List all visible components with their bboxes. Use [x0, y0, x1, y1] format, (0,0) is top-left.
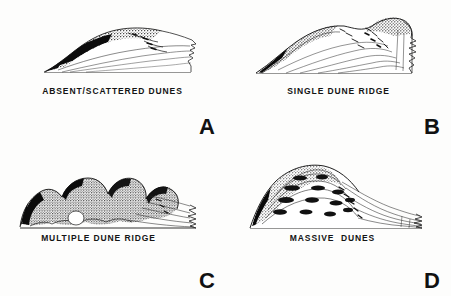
panel-d-letter: D: [424, 270, 440, 292]
panel-d: MASSIVE DUNES D: [226, 148, 451, 296]
panel-a: ABSENT/SCATTERED DUNES A: [0, 0, 225, 148]
panel-b-caption: SINGLE DUNE RIDGE: [226, 86, 451, 96]
panel-c-caption: MULTIPLE DUNE RIDGE: [0, 233, 211, 243]
dune-block-diagram-single-ridge: [226, 0, 451, 100]
panel-d-caption: MASSIVE DUNES: [220, 233, 445, 243]
panel-a-letter: A: [199, 116, 215, 138]
dune-classification-figure: ABSENT/SCATTERED DUNES A: [0, 0, 451, 296]
dune-block-diagram-absent-scattered: [0, 0, 225, 100]
panel-c-letter: C: [199, 270, 215, 292]
panel-b: SINGLE DUNE RIDGE B: [226, 0, 451, 148]
panel-c: MULTIPLE DUNE RIDGE C: [0, 148, 225, 296]
panel-a-caption: ABSENT/SCATTERED DUNES: [0, 86, 225, 96]
panel-b-letter: B: [424, 116, 440, 138]
